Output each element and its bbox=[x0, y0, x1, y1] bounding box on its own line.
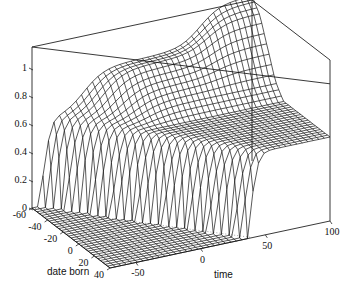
z-tick-label: 0.8 bbox=[15, 90, 28, 101]
time-tick-label: 0 bbox=[200, 254, 205, 265]
z-tick-label: 0.4 bbox=[15, 146, 28, 157]
bounding-box bbox=[32, 0, 330, 268]
time-tick-label: 50 bbox=[262, 240, 272, 251]
z-tick-label: 0.6 bbox=[15, 118, 28, 129]
date-born-tick-label: 0 bbox=[68, 245, 73, 256]
date-born-tick-label: -20 bbox=[44, 233, 57, 244]
x-axis-label: date born bbox=[47, 266, 89, 277]
date-born-tick-label: -40 bbox=[28, 221, 41, 232]
z-axis-ticks: 00.20.40.60.81 bbox=[15, 62, 34, 213]
date-born-tick-label: 40 bbox=[94, 269, 104, 280]
y-axis-label: time bbox=[214, 269, 233, 280]
time-tick-label: 100 bbox=[325, 226, 340, 237]
date-born-tick-label: -60 bbox=[13, 209, 26, 220]
surface-plot: 00.20.40.60.81 -60-40-2002040 -50050100 … bbox=[0, 0, 352, 288]
z-tick-label: 1 bbox=[22, 62, 27, 73]
z-tick-label: 0.2 bbox=[15, 174, 28, 185]
time-tick-label: -50 bbox=[131, 267, 144, 278]
